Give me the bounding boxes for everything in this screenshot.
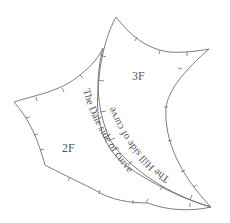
piece-2f-outline: [14, 48, 211, 210]
region-label-2f: 2F: [62, 141, 75, 155]
diagram-canvas: 3F 2F The Dale side of curve The Hill si…: [0, 0, 230, 223]
region-label-3f: 3F: [132, 69, 145, 83]
pattern-diagram: 3F 2F The Dale side of curve The Hill si…: [0, 0, 230, 223]
